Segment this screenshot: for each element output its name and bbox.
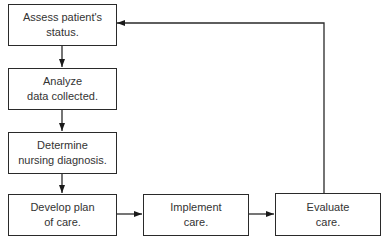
node-develop-label: Develop plan of care. [30,200,94,230]
node-implement-label: Implement care. [170,200,221,230]
node-evaluate: Evaluate care. [275,193,381,236]
node-assess-label: Assess patient's status. [23,10,102,40]
arrow-evaluate-to-assess [117,23,324,193]
node-determine-label: Determine nursing diagnosis. [18,138,107,168]
node-determine: Determine nursing diagnosis. [8,132,117,174]
node-implement: Implement care. [143,194,249,236]
node-evaluate-label: Evaluate care. [307,200,350,230]
node-analyze-label: Analyze data collected. [27,74,98,104]
node-develop: Develop plan of care. [8,194,117,236]
nursing-process-flowchart: Assess patient's status. Analyze data co… [0,0,390,245]
node-analyze: Analyze data collected. [8,68,117,110]
node-assess: Assess patient's status. [8,4,117,46]
